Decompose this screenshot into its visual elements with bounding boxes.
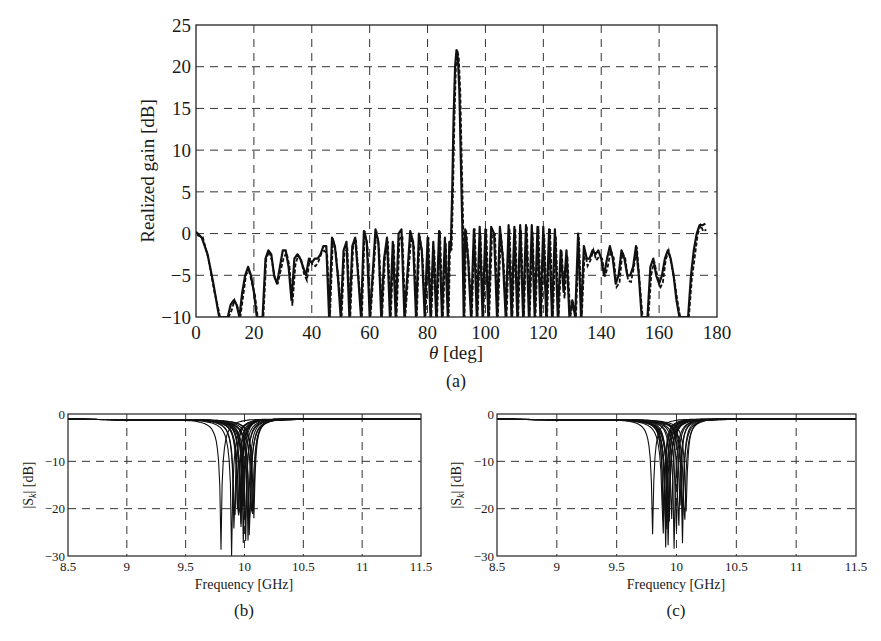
svg-text:100: 100	[471, 322, 500, 343]
panel-b-caption: (b)	[234, 601, 254, 620]
svg-text:−10: −10	[45, 454, 65, 469]
panel-b-curves	[68, 419, 421, 556]
svg-text:−10: −10	[474, 454, 494, 469]
panel-c-y-tick-labels: −30−20−100	[474, 407, 494, 564]
svg-text:−20: −20	[474, 501, 494, 516]
svg-text:0: 0	[488, 407, 495, 422]
svg-text:−5: −5	[171, 265, 191, 286]
panel-b-s-parameters: 8.599.51010.51111.5 −30−20−100 Frequency…	[21, 407, 432, 620]
svg-text:10.5: 10.5	[725, 559, 748, 574]
panel-b-x-tick-labels: 8.599.51010.51111.5	[60, 559, 432, 574]
svg-text:10: 10	[670, 559, 683, 574]
panel-c-caption: (c)	[667, 601, 686, 620]
panel-c-s-parameters: 8.599.51010.51111.5 −30−20−100 Frequency…	[449, 407, 867, 620]
svg-text:−30: −30	[45, 549, 65, 564]
svg-text:−10: −10	[161, 307, 191, 328]
svg-text:11: 11	[790, 559, 803, 574]
svg-text:40: 40	[302, 322, 321, 343]
panel-a-x-tick-labels: 020406080100120140160180	[191, 322, 731, 343]
svg-text:20: 20	[172, 56, 191, 77]
svg-text:0: 0	[59, 407, 66, 422]
svg-text:11.5: 11.5	[410, 559, 432, 574]
svg-text:0: 0	[182, 223, 192, 244]
panel-a-y-tick-labels: −10−50510152025	[161, 15, 191, 328]
svg-text:120: 120	[529, 322, 558, 343]
panel-c-curves	[497, 419, 856, 549]
panel-a-curves	[196, 50, 706, 317]
figure: 020406080100120140160180 −10−50510152025…	[0, 0, 881, 641]
svg-text:11.5: 11.5	[845, 559, 867, 574]
svg-text:0: 0	[191, 322, 201, 343]
svg-text:140: 140	[587, 322, 616, 343]
svg-text:9.5: 9.5	[609, 559, 625, 574]
panel-b-y-axis-label: |Sk| [dB]	[21, 461, 38, 508]
svg-text:5: 5	[182, 182, 192, 203]
svg-text:9: 9	[124, 559, 131, 574]
panel-c-y-axis-label: |Sk| [dB]	[449, 461, 466, 508]
svg-text:10: 10	[238, 559, 251, 574]
svg-text:180: 180	[703, 322, 732, 343]
svg-text:11: 11	[356, 559, 369, 574]
svg-text:10.5: 10.5	[292, 559, 315, 574]
svg-text:15: 15	[172, 98, 191, 119]
svg-text:−20: −20	[45, 501, 65, 516]
panel-b-y-tick-labels: −30−20−100	[45, 407, 65, 564]
panel-a-x-axis-label: θ [deg]	[429, 342, 483, 363]
panel-a-gain-pattern: 020406080100120140160180 −10−50510152025…	[137, 15, 731, 392]
panel-c-x-axis-label: Frequency [GHz]	[627, 577, 725, 592]
svg-text:9: 9	[554, 559, 561, 574]
svg-text:80: 80	[418, 322, 437, 343]
svg-text:25: 25	[172, 15, 191, 36]
svg-text:60: 60	[360, 322, 379, 343]
svg-text:10: 10	[172, 140, 191, 161]
svg-text:160: 160	[645, 322, 674, 343]
svg-text:−30: −30	[474, 549, 494, 564]
panel-a-caption: (a)	[446, 371, 466, 392]
svg-text:9.5: 9.5	[178, 559, 194, 574]
panel-c-x-tick-labels: 8.599.51010.51111.5	[489, 559, 867, 574]
panel-b-x-axis-label: Frequency [GHz]	[195, 577, 293, 592]
svg-text:20: 20	[244, 322, 263, 343]
panel-a-y-axis-label: Realized gain [dB]	[137, 99, 158, 243]
